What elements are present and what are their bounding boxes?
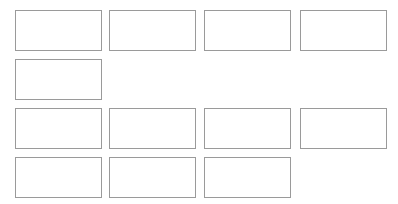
empty-box (15, 59, 102, 100)
empty-box (109, 10, 196, 51)
empty-box (204, 10, 291, 51)
empty-box (109, 108, 196, 149)
empty-box (15, 108, 102, 149)
empty-box (15, 157, 102, 198)
empty-box (300, 108, 387, 149)
empty-box (109, 157, 196, 198)
empty-box (15, 10, 102, 51)
empty-box (204, 108, 291, 149)
empty-box (300, 10, 387, 51)
empty-box (204, 157, 291, 198)
